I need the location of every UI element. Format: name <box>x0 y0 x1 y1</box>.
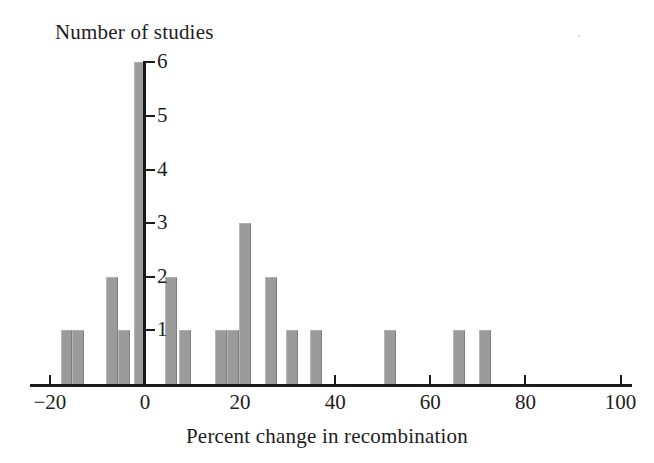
histogram-bar <box>61 330 73 384</box>
histogram-bar <box>453 330 465 384</box>
x-axis-tick-label: 0 <box>110 390 180 415</box>
y-axis-tick <box>146 169 155 171</box>
y-axis-tick <box>146 61 155 63</box>
x-axis-tick-label: 60 <box>395 390 465 415</box>
y-axis-tick <box>146 115 155 117</box>
plot-area: −20020406080100123456 <box>0 0 654 463</box>
x-axis-tick-label: 100 <box>586 390 654 415</box>
histogram-bar <box>479 330 491 384</box>
x-axis-title: Percent change in recombination <box>0 424 654 449</box>
x-axis-tick-label: 20 <box>205 390 275 415</box>
scan-speck <box>578 35 580 37</box>
y-axis-tick-label: 3 <box>157 212 168 233</box>
y-axis-tick-label: 5 <box>157 105 168 126</box>
y-axis-tick-label: 4 <box>157 159 168 180</box>
histogram-bar <box>118 330 130 384</box>
y-axis-tick <box>146 222 155 224</box>
y-axis-tick-label: 2 <box>157 266 168 287</box>
x-axis-tick-label: 40 <box>300 390 370 415</box>
y-axis-tick <box>146 329 155 331</box>
histogram-figure: Number of studies −20020406080100123456 … <box>0 0 654 463</box>
histogram-bar <box>227 330 239 384</box>
histogram-bar <box>106 277 118 384</box>
x-axis-tick-label: 80 <box>490 390 560 415</box>
histogram-bar <box>239 223 251 384</box>
y-axis-tick-label: 6 <box>157 51 168 72</box>
x-axis-tick-label: −20 <box>15 390 85 415</box>
histogram-bar <box>72 330 84 384</box>
y-axis-tick <box>146 276 155 278</box>
histogram-bar <box>179 330 191 384</box>
histogram-bar <box>215 330 227 384</box>
histogram-bar <box>384 330 396 384</box>
histogram-bar <box>310 330 322 384</box>
histogram-bar <box>286 330 298 384</box>
y-axis-tick-label: 1 <box>157 319 168 340</box>
x-axis-line <box>30 384 632 387</box>
histogram-bar <box>265 277 277 384</box>
